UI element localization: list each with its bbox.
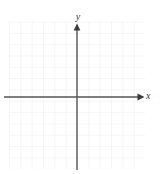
x-axis-label: x <box>146 91 158 101</box>
coordinate-plane-canvas <box>0 0 160 174</box>
y-axis-label: y <box>72 12 84 22</box>
coordinate-plane-figure: y x <box>0 0 160 174</box>
